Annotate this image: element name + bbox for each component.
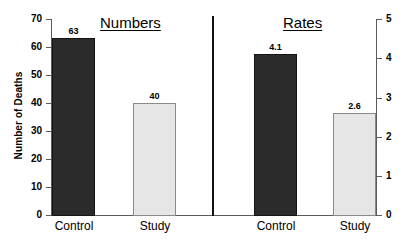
bar-numbers-study	[133, 103, 176, 216]
tick-label-left-70: 70	[2, 13, 42, 24]
x-tick-label-numbers-study: Study	[127, 219, 183, 233]
tick-label-right-5: 5	[386, 13, 410, 24]
tick-label-left-20: 20	[2, 153, 42, 164]
panel-heading-numbers: Numbers	[100, 14, 161, 31]
tick-label-left-0: 0	[2, 209, 42, 220]
y-axis-title-left: Number of Deaths	[13, 36, 24, 196]
tick-label-right-4: 4	[386, 52, 410, 63]
tick-label-right-3: 3	[386, 92, 410, 103]
x-axis-line	[51, 215, 377, 216]
bar-chart-figure: Number of Deaths Death Rates per 10,000 …	[0, 0, 420, 248]
tick-mark-right-3	[376, 98, 382, 99]
bar-rates-study	[333, 113, 376, 216]
y-axis-line-right	[376, 19, 377, 216]
tick-mark-left-70	[46, 19, 52, 20]
tick-label-left-10: 10	[2, 181, 42, 192]
x-tick-label-numbers-control: Control	[46, 219, 102, 233]
tick-mark-right-2	[376, 137, 382, 138]
bar-value-numbers-study: 40	[133, 91, 176, 101]
tick-mark-right-5	[376, 19, 382, 20]
tick-mark-right-1	[376, 176, 382, 177]
panel-divider-line	[212, 16, 214, 216]
tick-mark-right-4	[376, 58, 382, 59]
tick-mark-right-0	[376, 215, 382, 216]
tick-label-left-40: 40	[2, 97, 42, 108]
bar-value-rates-control: 4.1	[254, 42, 297, 52]
bar-rates-control	[254, 54, 297, 216]
bar-value-rates-study: 2.6	[333, 101, 376, 111]
panel-heading-rates: Rates	[283, 14, 322, 31]
tick-label-right-1: 1	[386, 170, 410, 181]
x-tick-label-rates-study: Study	[327, 219, 383, 233]
bar-numbers-control	[52, 38, 95, 216]
tick-label-left-30: 30	[2, 125, 42, 136]
x-tick-label-rates-control: Control	[248, 219, 304, 233]
tick-label-left-60: 60	[2, 41, 42, 52]
bar-value-numbers-control: 63	[52, 26, 95, 36]
tick-label-right-2: 2	[386, 131, 410, 142]
tick-label-left-50: 50	[2, 69, 42, 80]
tick-label-right-0: 0	[386, 209, 410, 220]
